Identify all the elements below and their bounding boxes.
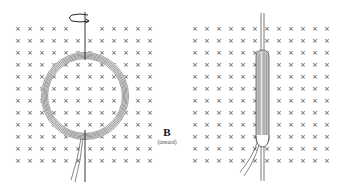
field-x-mark: ×	[147, 121, 153, 129]
field-x-mark: ×	[99, 37, 105, 45]
field-x-mark: ×	[324, 145, 330, 153]
field-x-mark: ×	[204, 133, 210, 141]
field-x-mark: ×	[135, 157, 141, 165]
field-x-mark: ×	[240, 133, 246, 141]
field-x-mark: ×	[111, 157, 117, 165]
field-x-mark: ×	[192, 49, 198, 57]
field-x-mark: ×	[27, 145, 33, 153]
field-x-mark: ×	[228, 49, 234, 57]
right-coil-edge-on	[256, 50, 269, 147]
field-x-mark: ×	[147, 133, 153, 141]
field-x-mark: ×	[27, 49, 33, 57]
field-x-mark: ×	[75, 109, 81, 117]
field-x-mark: ×	[39, 121, 45, 129]
field-x-mark: ×	[216, 85, 222, 93]
field-x-mark: ×	[324, 157, 330, 165]
field-x-mark: ×	[240, 73, 246, 81]
field-x-mark: ×	[300, 109, 306, 117]
field-x-mark: ×	[192, 145, 198, 153]
field-x-mark: ×	[147, 145, 153, 153]
field-x-mark: ×	[216, 61, 222, 69]
field-x-mark: ×	[27, 109, 33, 117]
field-x-mark: ×	[39, 73, 45, 81]
field-x-mark: ×	[192, 121, 198, 129]
field-x-mark: ×	[324, 49, 330, 57]
field-x-mark: ×	[147, 61, 153, 69]
field-x-mark: ×	[63, 49, 69, 57]
field-x-mark: ×	[240, 145, 246, 153]
field-x-mark: ×	[312, 73, 318, 81]
field-x-mark: ×	[312, 157, 318, 165]
field-x-mark: ×	[240, 25, 246, 33]
field-x-mark: ×	[135, 25, 141, 33]
field-x-mark: ×	[216, 121, 222, 129]
field-x-mark: ×	[39, 133, 45, 141]
field-x-mark: ×	[147, 73, 153, 81]
field-x-mark: ×	[63, 37, 69, 45]
field-x-mark: ×	[288, 37, 294, 45]
field-x-mark: ×	[216, 25, 222, 33]
field-x-mark: ×	[123, 61, 129, 69]
field-x-mark: ×	[228, 61, 234, 69]
field-x-mark: ×	[99, 85, 105, 93]
field-x-mark: ×	[228, 145, 234, 153]
field-x-mark: ×	[135, 61, 141, 69]
field-x-mark: ×	[312, 49, 318, 57]
field-x-mark: ×	[240, 109, 246, 117]
field-x-mark: ×	[216, 133, 222, 141]
field-x-mark: ×	[15, 61, 21, 69]
field-x-mark: ×	[15, 121, 21, 129]
field-x-mark: ×	[312, 25, 318, 33]
field-x-mark: ×	[312, 121, 318, 129]
field-x-mark: ×	[192, 85, 198, 93]
field-x-mark: ×	[240, 49, 246, 57]
field-x-mark: ×	[228, 25, 234, 33]
field-x-mark: ×	[300, 133, 306, 141]
field-x-mark: ×	[51, 25, 57, 33]
field-x-mark: ×	[312, 37, 318, 45]
field-x-mark: ×	[75, 97, 81, 105]
field-x-mark: ×	[111, 37, 117, 45]
field-x-mark: ×	[312, 133, 318, 141]
field-x-mark: ×	[288, 73, 294, 81]
field-x-mark: ×	[324, 85, 330, 93]
field-x-mark: ×	[39, 145, 45, 153]
field-x-mark: ×	[312, 145, 318, 153]
field-x-mark: ×	[39, 37, 45, 45]
field-x-mark: ×	[27, 85, 33, 93]
field-x-mark: ×	[312, 85, 318, 93]
field-x-mark: ×	[324, 61, 330, 69]
field-x-mark: ×	[216, 73, 222, 81]
field-x-mark: ×	[300, 85, 306, 93]
field-x-mark: ×	[300, 61, 306, 69]
field-x-mark: ×	[276, 25, 282, 33]
field-x-mark: ×	[63, 97, 69, 105]
field-x-mark: ×	[252, 37, 258, 45]
field-x-mark: ×	[27, 25, 33, 33]
field-x-mark: ×	[204, 121, 210, 129]
field-x-mark: ×	[15, 85, 21, 93]
field-x-mark: ×	[276, 73, 282, 81]
field-x-mark: ×	[15, 109, 21, 117]
field-x-mark: ×	[276, 145, 282, 153]
field-x-mark: ×	[276, 109, 282, 117]
field-x-mark: ×	[216, 109, 222, 117]
field-x-mark: ×	[51, 145, 57, 153]
field-x-mark: ×	[135, 97, 141, 105]
field-x-mark: ×	[300, 157, 306, 165]
rotation-arrow-icon	[70, 14, 90, 23]
field-x-mark: ×	[75, 121, 81, 129]
field-x-mark: ×	[63, 85, 69, 93]
field-x-mark: ×	[288, 121, 294, 129]
field-x-mark: ×	[111, 25, 117, 33]
field-x-mark: ×	[324, 97, 330, 105]
field-x-mark: ×	[63, 73, 69, 81]
field-x-mark: ×	[312, 109, 318, 117]
left-field-grid: ××××××××××××××××××××××××××××××××××××××××…	[15, 25, 153, 165]
field-x-mark: ×	[15, 73, 21, 81]
field-x-mark: ×	[135, 73, 141, 81]
field-x-mark: ×	[111, 145, 117, 153]
field-x-mark: ×	[15, 157, 21, 165]
field-x-mark: ×	[216, 145, 222, 153]
field-x-mark: ×	[300, 121, 306, 129]
